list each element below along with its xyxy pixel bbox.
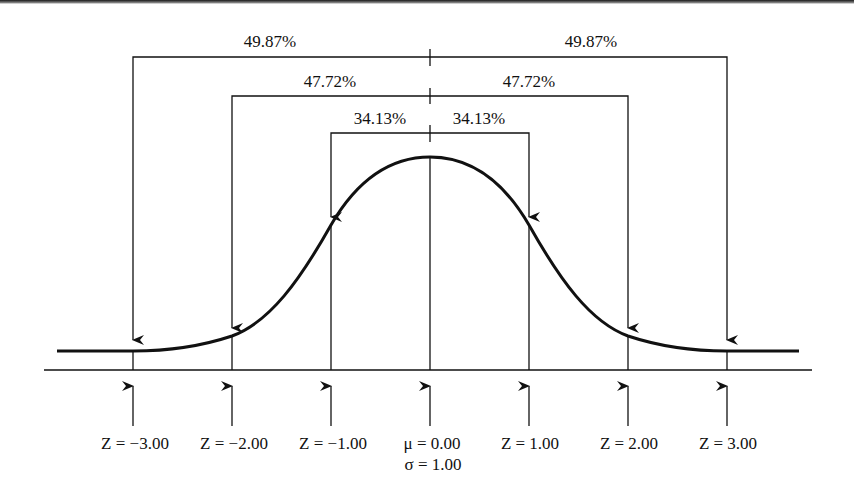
label-49-87-left: 49.87% — [244, 32, 296, 51]
label-34-13-right: 34.13% — [453, 109, 505, 128]
label-34-13-left: 34.13% — [354, 109, 406, 128]
normal-distribution-diagram: 49.87% 49.87% 47.72% 47.72% 34.13% 34.13… — [0, 0, 854, 500]
label-47-72-right: 47.72% — [503, 72, 555, 91]
z-label-pos3: Z = 3.00 — [699, 434, 757, 453]
sigma-label: σ = 1.00 — [404, 455, 461, 474]
z-label-neg3: Z = −3.00 — [101, 434, 169, 453]
label-47-72-left: 47.72% — [304, 72, 356, 91]
normal-curve — [57, 157, 799, 351]
mean-label: μ = 0.00 — [404, 434, 461, 453]
z-arrows — [133, 386, 727, 426]
z-label-pos1: Z = 1.00 — [501, 434, 559, 453]
z-label-neg2: Z = −2.00 — [200, 434, 268, 453]
label-49-87-right: 49.87% — [565, 32, 617, 51]
z-label-pos2: Z = 2.00 — [600, 434, 658, 453]
z-label-neg1: Z = −1.00 — [299, 434, 367, 453]
